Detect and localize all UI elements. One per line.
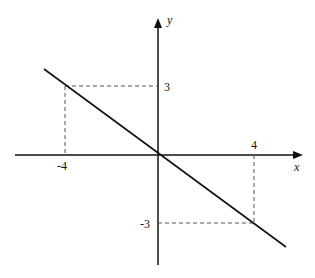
y-axis-arrow-icon (154, 18, 162, 28)
x-axis-label: x (293, 160, 300, 174)
y-axis-label: y (166, 13, 173, 27)
tick-label-x4: 4 (251, 138, 257, 152)
tick-label-y-neg3: -3 (140, 217, 150, 231)
x-axis-arrow-icon (293, 151, 303, 159)
tick-label-x-neg4: -4 (57, 159, 67, 173)
function-line (44, 69, 286, 247)
coordinate-diagram: y x 3 -3 -4 4 (0, 0, 315, 278)
tick-label-y3: 3 (164, 80, 170, 94)
